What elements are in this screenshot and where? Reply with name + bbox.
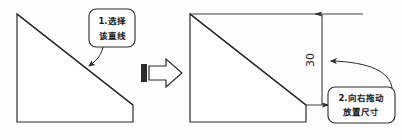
callout-1-line1: 1.选择 [98, 16, 125, 26]
callout-2-group[interactable]: 2.向右拖动 放置尺寸 [328, 61, 395, 123]
right-shape-group [190, 14, 306, 122]
arrow-tail-block-icon [141, 64, 147, 82]
callout-1-box[interactable] [89, 9, 135, 47]
right-shape-outline[interactable] [190, 14, 306, 122]
callout-2-line1: 2.向右拖动 [338, 93, 383, 103]
callout-2-line2: 放置尺寸 [342, 107, 379, 117]
transition-arrow-group [141, 59, 182, 87]
figure-canvas: 1.选择 该直线 30 2.向右拖动 放置尺寸 [0, 0, 404, 140]
callout-2-leader-line [331, 61, 392, 88]
callout-1-group[interactable]: 1.选择 该直线 [89, 9, 135, 66]
dimension-value-label: 30 [304, 53, 317, 67]
block-right-arrow-icon [149, 59, 182, 87]
callout-1-line2: 该直线 [99, 31, 126, 41]
callout-1-leader-line [89, 47, 103, 66]
diagram-svg: 1.选择 该直线 30 2.向右拖动 放置尺寸 [0, 0, 404, 140]
